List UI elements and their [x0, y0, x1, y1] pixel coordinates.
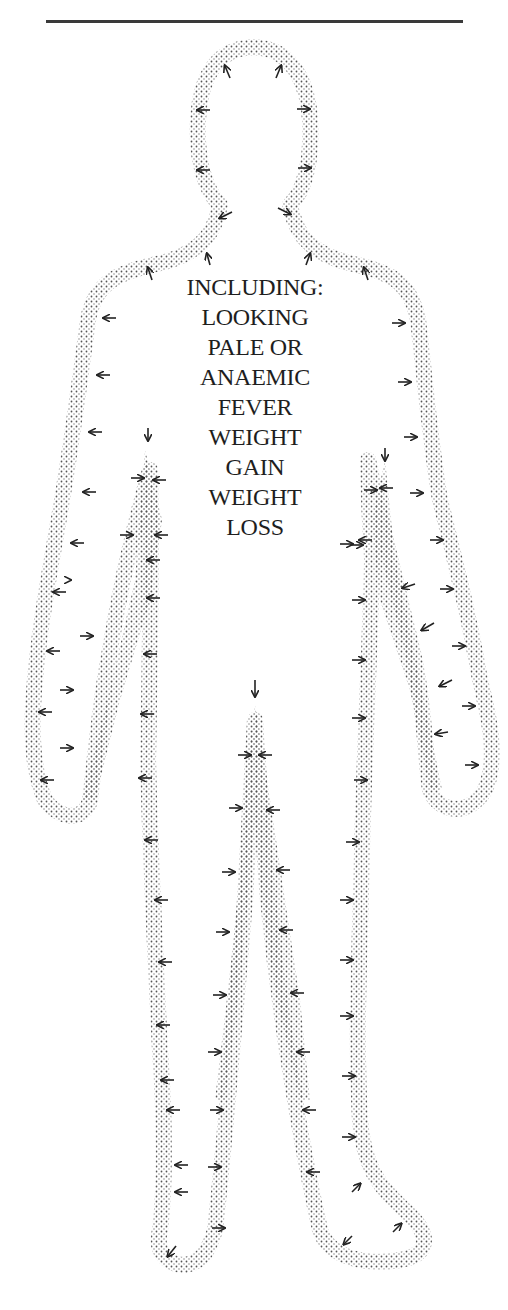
symptom-line: ANAEMIC — [150, 362, 360, 392]
symptom-line: GAIN — [150, 452, 360, 482]
symptom-line: LOOKING — [150, 302, 360, 332]
symptom-line: PALE OR — [150, 332, 360, 362]
symptom-line: FEVER — [150, 392, 360, 422]
body-outline-figure — [0, 0, 508, 1310]
symptom-line: WEIGHT — [150, 422, 360, 452]
symptom-line: WEIGHT — [150, 482, 360, 512]
symptom-list: INCLUDING: LOOKING PALE OR ANAEMIC FEVER… — [150, 272, 360, 542]
symptom-line: LOSS — [150, 512, 360, 542]
symptom-list-heading: INCLUDING: — [150, 272, 360, 302]
body-outline — [32, 47, 491, 1265]
